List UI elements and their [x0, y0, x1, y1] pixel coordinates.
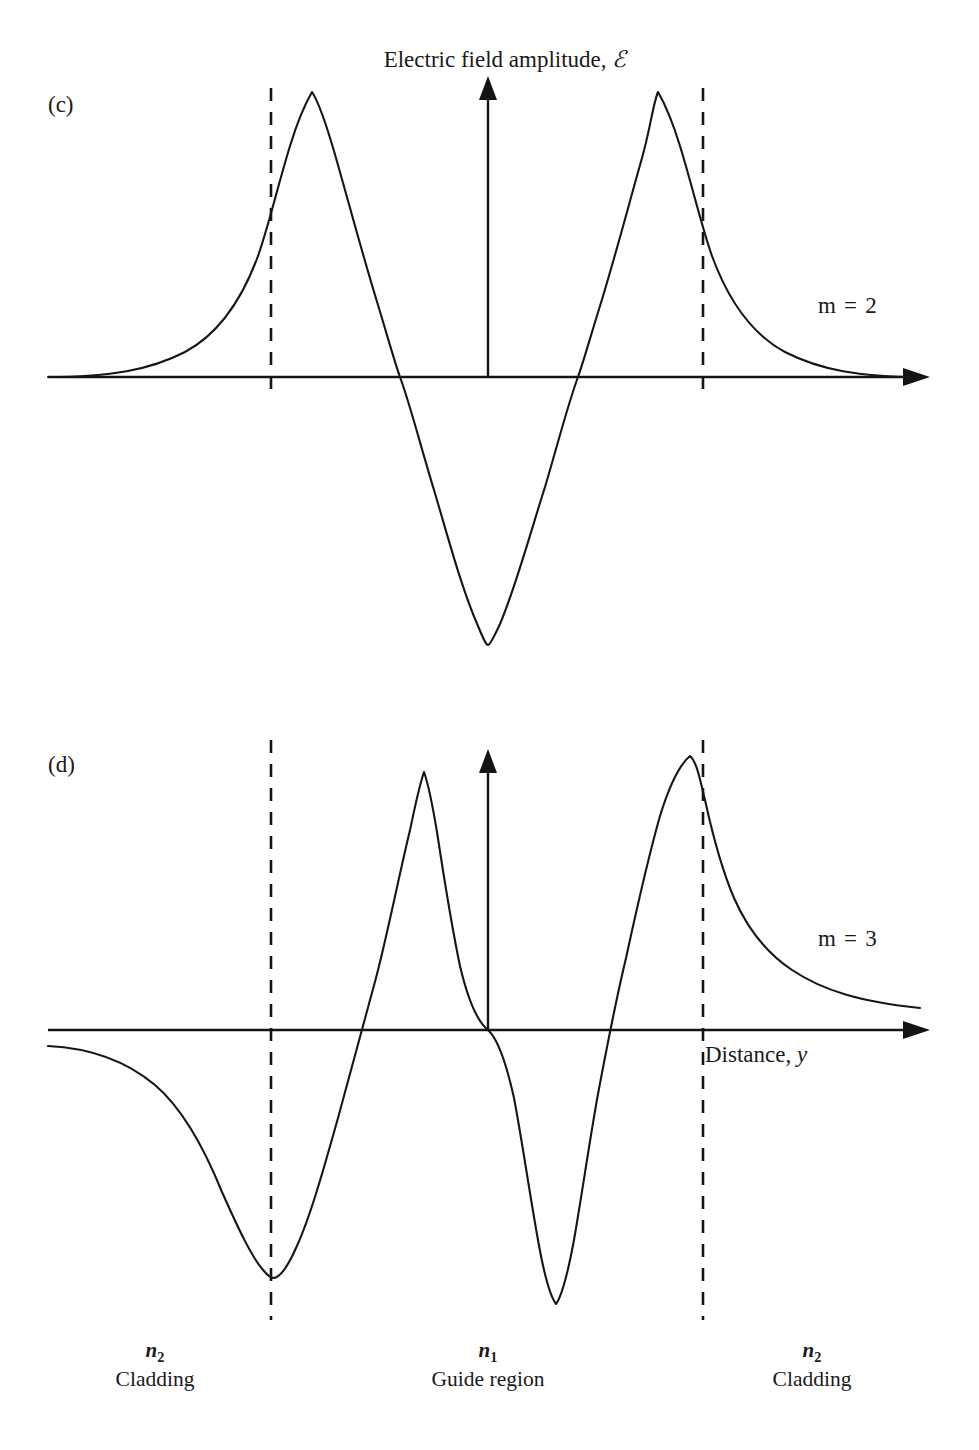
region-label-left-cladding: n2 Cladding	[116, 1338, 195, 1391]
mode-label-m2: m = 2	[818, 293, 878, 319]
x-axis-symbol: y	[797, 1042, 807, 1067]
figure-canvas	[0, 0, 979, 1450]
y-axis-title-text: Electric field amplitude,	[384, 47, 613, 72]
panel-d-graphics	[48, 740, 930, 1320]
region-name-guide: Guide region	[432, 1367, 545, 1391]
panel-c-field-curve	[48, 92, 920, 645]
region-name-right: Cladding	[773, 1367, 852, 1391]
panel-c-y-axis-arrowhead	[479, 76, 497, 100]
refractive-index-n2-right: n2	[773, 1338, 852, 1366]
region-name-left: Cladding	[116, 1367, 195, 1391]
panel-d-y-axis-arrowhead	[479, 749, 497, 773]
waveguide-mode-figure: Electric field amplitude, ℰ (c) m = 2 (d…	[0, 0, 979, 1450]
refractive-index-n2-left: n2	[116, 1338, 195, 1366]
mode-label-m3: m = 3	[818, 926, 878, 952]
region-label-right-cladding: n2 Cladding	[773, 1338, 852, 1391]
panel-label-c: (c)	[48, 92, 74, 118]
y-axis-title: Electric field amplitude, ℰ	[384, 46, 627, 73]
x-axis-title: Distance, y	[705, 1042, 807, 1068]
panel-c-graphics	[48, 76, 930, 645]
panel-label-d: (d)	[48, 752, 75, 778]
y-axis-symbol: ℰ	[612, 46, 626, 72]
refractive-index-n1: n1	[432, 1338, 545, 1366]
x-axis-title-text: Distance,	[705, 1042, 797, 1067]
region-label-guide: n1 Guide region	[432, 1338, 545, 1391]
panel-d-x-axis-arrowhead	[903, 1021, 930, 1039]
